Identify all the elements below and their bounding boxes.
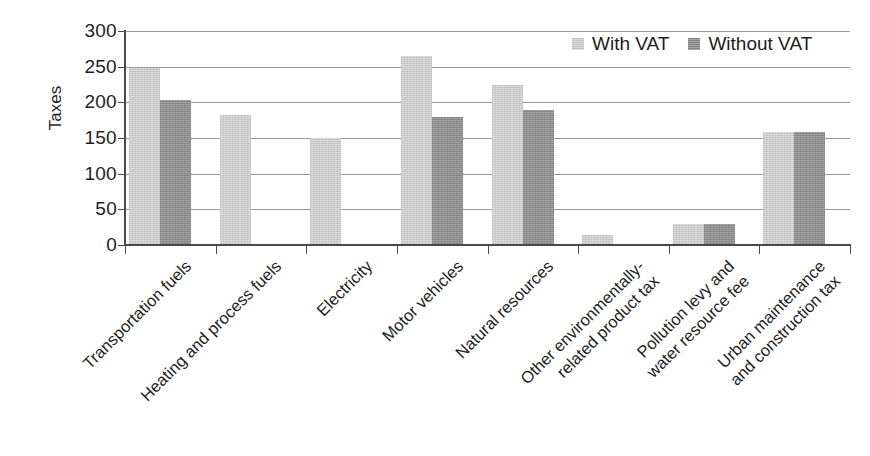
plot-area <box>125 31 850 245</box>
bar <box>220 115 251 245</box>
bar <box>432 117 463 245</box>
bar <box>673 224 704 245</box>
y-axis-tick-label: 100 <box>84 163 117 185</box>
legend-label: Without VAT <box>708 33 812 55</box>
gridline <box>125 102 850 103</box>
bar <box>794 132 825 245</box>
bar <box>310 138 341 245</box>
legend-label: With VAT <box>592 33 669 55</box>
bar-chart: 050100150200250300 Taxes Transportation … <box>0 0 870 456</box>
bar <box>523 110 554 245</box>
x-axis-tick <box>759 245 760 254</box>
legend-item: With VAT <box>572 33 669 55</box>
gridline <box>125 67 850 68</box>
legend-swatch-icon <box>688 38 700 50</box>
x-axis-category-label: Transportation fuels <box>0 256 196 456</box>
y-axis-tick-label: 50 <box>95 198 117 220</box>
y-axis-line <box>124 30 126 246</box>
legend: With VATWithout VAT <box>572 33 812 55</box>
x-axis-tick <box>850 245 851 254</box>
x-axis-tick <box>397 245 398 254</box>
x-axis-tick <box>669 245 670 254</box>
gridline <box>125 31 850 32</box>
x-axis-tick <box>216 245 217 254</box>
y-axis-tick-label: 300 <box>84 20 117 42</box>
y-axis-title: Taxes <box>46 48 66 168</box>
y-axis-tick-label: 150 <box>84 127 117 149</box>
x-axis-tick <box>488 245 489 254</box>
x-axis-tick <box>578 245 579 254</box>
bar <box>492 85 523 246</box>
bar <box>129 68 160 245</box>
x-axis-category-label: Heating and process fuels <box>0 256 286 456</box>
x-axis-tick <box>306 245 307 254</box>
x-axis-category-label-line: Heating and process fuels <box>0 256 286 456</box>
x-axis-category-label-line: Transportation fuels <box>0 256 196 456</box>
bar <box>160 100 191 245</box>
bar <box>763 132 794 245</box>
y-axis-tick-label: 0 <box>106 234 117 256</box>
bar <box>704 224 735 245</box>
y-axis-tick-label: 250 <box>84 56 117 78</box>
x-axis-tick <box>125 245 126 254</box>
y-axis-tick-label: 200 <box>84 91 117 113</box>
bar <box>401 56 432 245</box>
legend-swatch-icon <box>572 38 584 50</box>
legend-item: Without VAT <box>688 33 812 55</box>
